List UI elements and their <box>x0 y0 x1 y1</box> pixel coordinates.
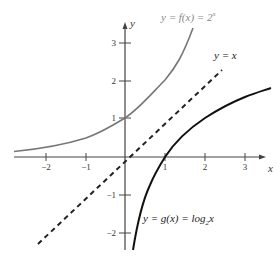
label-identity: y = x <box>213 49 237 61</box>
x-tick-label: 2 <box>203 162 208 172</box>
x-tick-label: −2 <box>41 162 51 172</box>
x-axis-label: x <box>267 162 273 174</box>
x-tick-label: 3 <box>243 162 248 172</box>
function-graph: −2 −1 1 2 3 3 2 1 −1 −2 x y y = f(x) = 2… <box>0 0 280 261</box>
label-logarithm-tail: x <box>208 212 214 224</box>
label-exponential-main: y = f(x) = 2 <box>160 11 213 24</box>
y-tick-label: 3 <box>112 38 117 48</box>
y-tick-label: 1 <box>112 113 117 123</box>
y-tick-label: −2 <box>106 228 116 238</box>
label-logarithm-main: y = g(x) = log <box>142 212 206 225</box>
x-tick-label: 1 <box>163 162 168 172</box>
y-tick-label: 2 <box>112 76 117 86</box>
x-tick-label: −1 <box>81 162 91 172</box>
x-axis-arrow-icon <box>259 155 266 160</box>
label-exponential-sup: x <box>212 10 217 18</box>
label-logarithm: y = g(x) = log2x <box>142 212 214 227</box>
y-axis-arrow-icon <box>123 22 128 29</box>
y-tick-label: −1 <box>106 190 116 200</box>
label-exponential: y = f(x) = 2x <box>160 10 217 24</box>
y-axis-label: y <box>129 17 135 29</box>
curve-exponential <box>14 28 193 152</box>
